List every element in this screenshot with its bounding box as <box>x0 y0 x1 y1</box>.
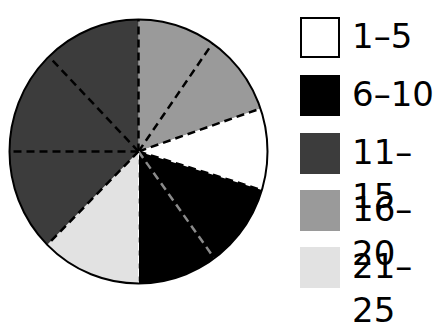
legend-swatch <box>300 75 340 116</box>
legend-item-11-15: 11–15 <box>300 133 447 174</box>
legend-item-16-20: 16–20 <box>300 190 447 231</box>
legend-label: 1–5 <box>352 14 412 58</box>
pie-chart <box>0 0 280 290</box>
legend-swatch <box>300 133 340 174</box>
legend-swatch <box>300 247 340 288</box>
legend-label: 6–10 <box>352 72 434 116</box>
legend-label: 21–25 <box>352 244 447 326</box>
legend-item-6-10: 6–10 <box>300 75 447 116</box>
legend-swatch <box>300 190 340 231</box>
legend-swatch <box>300 17 340 58</box>
legend-item-1-5: 1–5 <box>300 17 447 58</box>
legend-item-21-25: 21–25 <box>300 247 447 288</box>
